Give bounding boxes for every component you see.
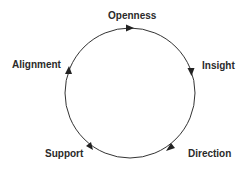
node-openness: Openness [108, 10, 156, 21]
node-support: Support [45, 148, 83, 159]
node-direction: Direction [188, 148, 231, 159]
arrow-icon [188, 68, 195, 76]
arrow-icon [166, 143, 175, 151]
arrow-icon [65, 66, 72, 74]
cycle-circle [65, 28, 195, 158]
node-insight: Insight [202, 60, 235, 71]
cycle-diagram [0, 0, 247, 171]
node-alignment: Alignment [12, 59, 61, 70]
arrow-icon [126, 25, 134, 32]
